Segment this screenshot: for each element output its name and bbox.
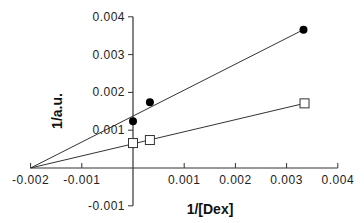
filled-circle-marker xyxy=(129,117,137,125)
x-axis-title: 1/[Dex] xyxy=(187,201,234,217)
filled-circle-marker xyxy=(146,98,154,106)
fit-line xyxy=(31,30,304,168)
data-points xyxy=(129,26,310,148)
open-square-marker xyxy=(145,136,154,145)
x-tick-label: -0.001 xyxy=(63,173,100,187)
filled-circle-marker xyxy=(299,26,307,34)
y-tick-label: 0.004 xyxy=(92,10,125,24)
x-tick-label: 0.001 xyxy=(168,173,201,187)
lineweaver-burk-plot: -0.002-0.0010.0010.0020.0030.0040.0040.0… xyxy=(0,0,364,223)
y-tick-label: 0.003 xyxy=(92,48,125,62)
open-square-marker xyxy=(129,139,138,148)
fit-line xyxy=(31,103,305,168)
x-tick-label: 0.002 xyxy=(219,173,252,187)
y-tick-label: -0.001 xyxy=(88,199,125,213)
fit-lines xyxy=(31,30,305,168)
y-axis-title: 1/a.u. xyxy=(49,93,65,129)
x-tick-label: -0.002 xyxy=(12,173,49,187)
x-tick-label: 0.003 xyxy=(270,173,303,187)
y-tick-label: 0.001 xyxy=(92,123,125,137)
x-tick-label: 0.004 xyxy=(322,173,355,187)
y-tick-label: 0.002 xyxy=(92,85,125,99)
open-square-marker xyxy=(300,99,309,108)
